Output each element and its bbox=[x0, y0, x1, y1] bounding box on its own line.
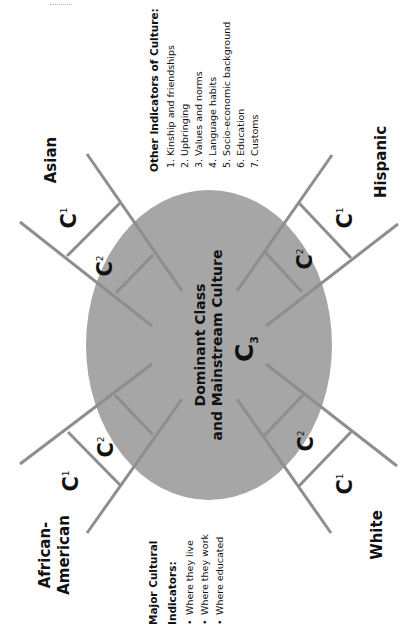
other-indicator-item: 4. Language habits bbox=[207, 77, 218, 168]
other-indicators-list: Other Indicators of Culture: 1. Kinship … bbox=[148, 8, 260, 172]
group-label-asian: Asian bbox=[42, 137, 60, 183]
level-c1-african-american: C1 bbox=[59, 470, 83, 491]
major-indicators-list: Major Cultural Indicators: • Where they … bbox=[147, 533, 225, 625]
group-label-white: White bbox=[368, 510, 386, 560]
group-label-african-american-line1: African- bbox=[36, 522, 54, 589]
other-indicator-item: 1. Kinship and friendships bbox=[165, 45, 176, 168]
major-indicator-bullet: • bbox=[214, 619, 225, 625]
other-indicator-item: 7. Customs bbox=[249, 115, 260, 168]
major-indicator-item: Where they work bbox=[199, 533, 210, 615]
group-label-hispanic: Hispanic bbox=[372, 126, 390, 198]
major-indicators-title-line1: Major Cultural bbox=[147, 541, 159, 625]
other-indicator-item: 6. Education bbox=[235, 109, 246, 168]
major-indicators-title-line2: Indicators: bbox=[166, 561, 178, 625]
center-title-line2: and Mainstream Culture bbox=[209, 250, 225, 441]
major-indicator-bullet: • bbox=[184, 619, 195, 625]
page-edge-artifact bbox=[50, 0, 72, 5]
other-indicators-title: Other Indicators of Culture: bbox=[148, 8, 160, 172]
major-indicator-item: Where they live bbox=[184, 540, 195, 615]
cultural-diagram: Dominant Class and Mainstream Culture C3… bbox=[0, 0, 414, 630]
other-indicator-item: 2. Upbringing bbox=[179, 104, 190, 168]
other-indicator-item: 3. Values and norms bbox=[193, 71, 204, 168]
other-indicator-item: 5. Socio-economic background bbox=[221, 22, 232, 168]
group-label-african-american-line2: American bbox=[55, 515, 73, 595]
level-c1-hispanic: C1 bbox=[333, 207, 357, 228]
major-indicator-bullet: • bbox=[199, 619, 210, 625]
level-c1-white: C1 bbox=[333, 473, 357, 494]
center-title-line1: Dominant Class bbox=[192, 284, 208, 407]
level-c1-asian: C1 bbox=[57, 207, 81, 228]
major-indicator-item: Where educated bbox=[214, 537, 225, 615]
